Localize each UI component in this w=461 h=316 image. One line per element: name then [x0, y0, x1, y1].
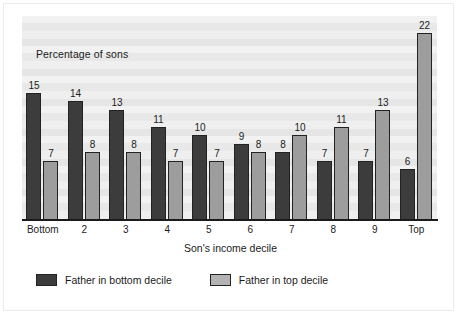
x-tick-label: 3	[103, 224, 149, 236]
bar-father-top-decile	[209, 161, 224, 221]
x-tick-label: Bottom	[20, 224, 66, 236]
x-tick-label: 6	[227, 224, 273, 236]
x-tick-label: 9	[352, 224, 398, 236]
legend-item-top-decile: Father in top decile	[210, 274, 328, 286]
chart-legend: Father in bottom decile Father in top de…	[36, 274, 328, 286]
bar-value-label: 7	[163, 149, 189, 159]
bar-value-label: 7	[38, 149, 64, 159]
bar-value-label: 10	[187, 123, 213, 133]
chart-figure: Percentage of sons 157148138117107988107…	[0, 0, 461, 316]
bar-group: 622	[398, 16, 440, 220]
x-axis-title: Son's income decile	[0, 242, 461, 254]
bar-father-top-decile	[251, 152, 266, 220]
bar-value-label: 6	[395, 157, 421, 167]
bar-father-top-decile	[334, 127, 349, 221]
bar-father-top-decile	[375, 110, 390, 221]
bar-value-label: 13	[370, 98, 396, 108]
legend-label-top-decile: Father in top decile	[239, 274, 328, 286]
bar-group: 157	[24, 16, 66, 220]
bar-value-label: 8	[246, 140, 272, 150]
bar-value-label: 14	[63, 89, 89, 99]
bar-value-label: 7	[353, 149, 379, 159]
x-tick-label: 7	[269, 224, 315, 236]
bar-group: 713	[356, 16, 398, 220]
bar-group: 148	[66, 16, 108, 220]
bar-father-bottom-decile	[317, 161, 332, 221]
bar-group: 711	[315, 16, 357, 220]
bars-layer: 15714813811710798810711713622	[22, 16, 437, 220]
x-tick-label: 4	[144, 224, 190, 236]
legend-swatch-icon-dark	[36, 274, 57, 286]
bar-value-label: 8	[80, 140, 106, 150]
bar-father-bottom-decile	[109, 110, 124, 221]
bar-father-top-decile	[417, 33, 432, 220]
bar-value-label: 22	[412, 21, 438, 31]
x-tick-label: Top	[393, 224, 439, 236]
legend-swatch-icon-light	[210, 274, 231, 286]
bar-father-bottom-decile	[151, 127, 166, 221]
bar-father-bottom-decile	[275, 152, 290, 220]
x-axis-tick-labels: Bottom23456789Top	[22, 224, 437, 240]
bar-father-top-decile	[85, 152, 100, 220]
legend-label-bottom-decile: Father in bottom decile	[65, 274, 172, 286]
bar-group: 98	[232, 16, 274, 220]
bar-father-bottom-decile	[400, 169, 415, 220]
bar-value-label: 10	[287, 123, 313, 133]
x-axis-line	[22, 219, 438, 221]
bar-group: 810	[273, 16, 315, 220]
bar-value-label: 15	[21, 81, 47, 91]
x-tick-label: 8	[310, 224, 356, 236]
legend-item-bottom-decile: Father in bottom decile	[36, 274, 172, 286]
bar-group: 107	[190, 16, 232, 220]
bar-father-bottom-decile	[358, 161, 373, 221]
bar-group: 117	[149, 16, 191, 220]
bar-group: 138	[107, 16, 149, 220]
bar-value-label: 13	[104, 98, 130, 108]
x-tick-label: 5	[186, 224, 232, 236]
x-tick-label: 2	[61, 224, 107, 236]
bar-value-label: 8	[121, 140, 147, 150]
bar-value-label: 7	[204, 149, 230, 159]
bar-father-bottom-decile	[68, 101, 83, 220]
bar-value-label: 11	[329, 115, 355, 125]
bar-father-top-decile	[43, 161, 58, 221]
bar-value-label: 7	[312, 149, 338, 159]
bar-father-top-decile	[126, 152, 141, 220]
bar-value-label: 11	[146, 115, 172, 125]
bar-father-bottom-decile	[234, 144, 249, 221]
bar-father-top-decile	[168, 161, 183, 221]
bar-value-label: 8	[270, 140, 296, 150]
